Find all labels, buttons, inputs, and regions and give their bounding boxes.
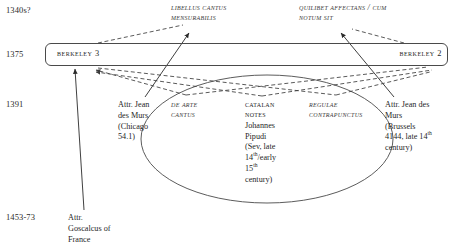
witness-line: Murs	[385, 111, 447, 122]
witness-chicago-54-1: Attr. Jean des Murs (Chicago 54.1)	[118, 100, 170, 143]
witness-catalan-notes: Catalan Notes Johannes Pipudi (Sev, late…	[245, 100, 301, 186]
witness-line: des Murs	[118, 111, 170, 122]
witness-de-arte-cantus: De arte cantus	[171, 100, 227, 121]
timeline-date-1375: 1375	[6, 50, 23, 60]
witness-line: Attr. Jean des	[385, 100, 447, 111]
witness-line: century)	[385, 143, 447, 154]
witness-goscalcus-of-france: Attr. Goscalcus of France	[68, 213, 150, 245]
arrow-goscalcus-to-berkeley3	[75, 69, 84, 210]
witness-line: century)	[245, 175, 301, 186]
berkeley-manuscript-box	[45, 43, 448, 66]
witness-line: contrapunctus	[309, 110, 375, 120]
dashed-quilibet-to-box-right	[352, 29, 404, 43]
witness-heading: Catalan	[245, 100, 301, 110]
stemma-diagram-canvas: 1340s? 1375 1391 1453-73 Libellus cantus…	[0, 0, 452, 245]
witness-line: (Brussels	[385, 122, 447, 133]
dashed-de-arte-to-box-right	[186, 67, 428, 95]
timeline-date-1340s: 1340s?	[6, 6, 31, 16]
witness-line: France	[68, 235, 150, 245]
dashed-libellus-to-box-left	[98, 25, 183, 43]
timeline-date-1391: 1391	[6, 100, 23, 110]
timeline-date-1453-73: 1453-73	[6, 213, 35, 223]
witness-heading: Notes	[245, 110, 301, 120]
witness-line: 4144, late 14th	[385, 132, 447, 143]
witness-line: cantus	[171, 110, 227, 120]
witness-line: Johannes	[245, 121, 301, 132]
witness-brussels-4144: Attr. Jean des Murs (Brussels 4144, late…	[385, 100, 447, 154]
witness-line: Regulae	[309, 100, 375, 110]
witness-line: 15th	[245, 164, 301, 175]
witness-line: Attr.	[68, 213, 150, 224]
berkeley-2-label: Berkeley 2	[399, 49, 442, 58]
witness-regulae-contrapunctus: Regulae contrapunctus	[309, 100, 375, 121]
exemplar-title-libellus: Libellus cantus mensurabilis	[171, 3, 251, 24]
witness-line: Attr. Jean	[118, 100, 170, 111]
witness-line: (Chicago	[118, 122, 170, 133]
dashed-regulae-to-box-right	[336, 72, 430, 95]
witness-line: De arte	[171, 100, 227, 110]
witness-line: Pipudi	[245, 132, 301, 143]
witness-line: Goscalcus of	[68, 224, 150, 235]
witness-line: 54.1)	[118, 132, 170, 143]
berkeley-3-label: Berkeley 3	[57, 49, 100, 58]
exemplar-title-quilibet: Quilibet affectans / Cum notum sit	[299, 3, 389, 24]
